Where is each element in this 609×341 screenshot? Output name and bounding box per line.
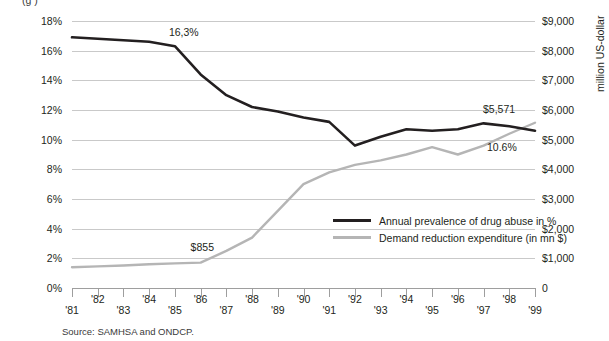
right-axis-tick: $9,000 <box>542 15 598 27</box>
series-layer <box>72 21 535 288</box>
x-axis-label: '95 <box>417 304 447 316</box>
plot-area <box>72 21 535 288</box>
prevalence-line <box>72 37 535 145</box>
x-axis-tick <box>484 288 485 297</box>
x-axis-tick <box>72 288 73 297</box>
legend-item-prevalence[interactable]: Annual prevalence of drug abuse in % <box>333 212 567 229</box>
x-axis-tick <box>123 288 124 297</box>
prevalence-end-label: 10.6% <box>487 141 517 153</box>
left-axis-tick: 8% <box>6 163 62 175</box>
left-axis-tick: 12% <box>6 104 62 116</box>
right-axis-tick: $3,000 <box>542 193 598 205</box>
x-axis-label: '85 <box>160 304 190 316</box>
chart-title-clipped: (g ) <box>22 0 442 6</box>
x-axis-tick <box>278 288 279 297</box>
left-axis-tick: 14% <box>6 74 62 86</box>
x-axis-label: '91 <box>314 304 344 316</box>
right-axis-tick: $6,000 <box>542 104 598 116</box>
legend-item-expenditure[interactable]: Demand reduction expenditure (in mn $) <box>333 229 567 246</box>
source-note: Source: SAMHSA and ONDCP. <box>62 326 194 337</box>
right-axis-tick: $8,000 <box>542 45 598 57</box>
x-axis-label: '83 <box>108 304 138 316</box>
x-axis-label: '89 <box>263 304 293 316</box>
left-axis-tick: 16% <box>6 45 62 57</box>
expenditure-1986-label: $855 <box>191 241 214 253</box>
left-axis-tick: 0% <box>6 282 62 294</box>
x-axis-label: '99 <box>520 304 550 316</box>
left-axis-tick: 18% <box>6 15 62 27</box>
legend-label-prevalence: Annual prevalence of drug abuse in % <box>379 215 556 227</box>
left-axis-tick: 10% <box>6 134 62 146</box>
left-axis-tick: 4% <box>6 223 62 235</box>
x-axis-tick <box>329 288 330 297</box>
right-axis-tick: $7,000 <box>542 74 598 86</box>
x-axis-tick <box>226 288 227 297</box>
left-axis-tick: 6% <box>6 193 62 205</box>
left-axis-tick: 2% <box>6 252 62 264</box>
legend-swatch-expenditure <box>333 236 371 239</box>
x-axis-tick <box>432 288 433 297</box>
x-axis-label: '97 <box>469 304 499 316</box>
chart-legend: Annual prevalence of drug abuse in % Dem… <box>333 212 567 246</box>
x-axis-tick <box>535 288 536 297</box>
right-axis-tick: $1,000 <box>542 252 598 264</box>
x-axis-label: '81 <box>57 304 87 316</box>
legend-label-expenditure: Demand reduction expenditure (in mn $) <box>379 232 567 244</box>
x-axis-tick <box>175 288 176 297</box>
prevalence-peak-label: 16,3% <box>169 26 199 38</box>
right-axis-tick: $5,000 <box>542 134 598 146</box>
expenditure-end-label: $5,571 <box>483 103 515 115</box>
chart-root: (g ) Annual prevalence million US-dollar… <box>0 0 609 341</box>
right-axis-tick: $4,000 <box>542 163 598 175</box>
x-axis-label: '93 <box>366 304 396 316</box>
x-axis-tick <box>381 288 382 297</box>
legend-swatch-prevalence <box>333 219 371 222</box>
x-axis-label: '87 <box>211 304 241 316</box>
right-axis-tick: 0 <box>542 282 598 294</box>
